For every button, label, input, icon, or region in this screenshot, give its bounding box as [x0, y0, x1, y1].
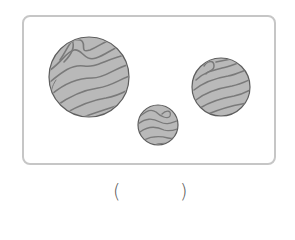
open-parenthesis: (: [113, 180, 120, 202]
answer-blank[interactable]: ( ): [0, 180, 295, 206]
small-log-icon: [138, 105, 180, 146]
close-parenthesis: ): [180, 180, 187, 202]
large-log-icon: [49, 37, 132, 122]
medium-log-icon: [192, 56, 254, 118]
